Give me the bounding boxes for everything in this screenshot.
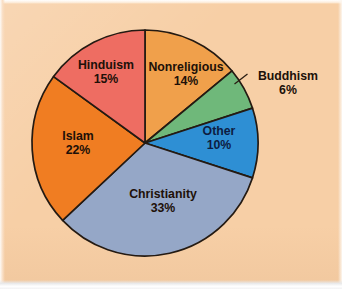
- slice-label-buddhism-name: Buddhism: [258, 69, 318, 83]
- slice-label-nonreligious-name: Nonreligious: [148, 60, 223, 74]
- slice-label-other-value: 10%: [207, 138, 232, 152]
- slice-label-christianity-value: 33%: [151, 201, 176, 215]
- slice-label-islam-value: 22%: [66, 143, 91, 157]
- slice-label-christianity-name: Christianity: [129, 187, 197, 201]
- slice-label-other: Other 10%: [203, 124, 236, 152]
- slice-label-buddhism-value: 6%: [279, 83, 297, 97]
- slice-label-buddhism: Buddhism 6%: [258, 69, 318, 97]
- slice-label-hinduism-value: 15%: [94, 72, 119, 86]
- pie-chart-canvas: Nonreligious 14% Buddhism 6% Other 10% C…: [0, 0, 342, 289]
- slice-label-islam: Islam 22%: [62, 129, 94, 157]
- slice-label-hinduism-name: Hinduism: [78, 58, 134, 72]
- slice-label-nonreligious-value: 14%: [174, 74, 199, 88]
- slice-label-other-name: Other: [203, 124, 236, 138]
- slice-label-islam-name: Islam: [62, 129, 94, 143]
- pie-chart-figure: Nonreligious 14% Buddhism 6% Other 10% C…: [0, 0, 342, 289]
